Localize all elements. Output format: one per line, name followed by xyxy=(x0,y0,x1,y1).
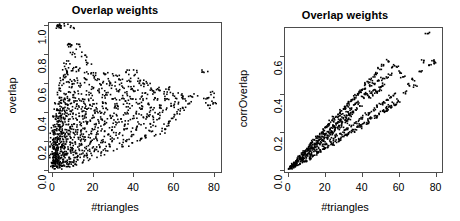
x-tick-label: 20 xyxy=(87,182,99,193)
y-axis-title-right: corrOverlap xyxy=(238,59,249,139)
scatter-canvas-right xyxy=(285,28,442,172)
y-tick-label: 0.6 xyxy=(37,83,48,107)
x-axis-title-left: #triangles xyxy=(0,202,230,213)
x-tick-label: 60 xyxy=(168,182,180,193)
x-tick-mark xyxy=(52,173,53,177)
panel-overlap: Overlap weights overlap #triangles 02040… xyxy=(0,0,230,221)
panel-title-right: Overlap weights xyxy=(230,9,460,21)
x-tick-label: 80 xyxy=(208,182,220,193)
x-tick-label: 80 xyxy=(430,182,442,193)
y-tick-label: 0.8 xyxy=(37,54,48,78)
x-tick-mark xyxy=(399,173,400,177)
x-tick-mark xyxy=(288,173,289,177)
x-tick-label: 60 xyxy=(393,182,405,193)
y-tick-label: 0.0 xyxy=(37,170,48,194)
x-tick-mark xyxy=(214,173,215,177)
y-tick-label: 0.6 xyxy=(273,56,284,80)
x-axis-title-right: #triangles xyxy=(230,202,460,213)
x-tick-label: 40 xyxy=(127,182,139,193)
x-tick-label: 40 xyxy=(356,182,368,193)
y-tick-label: 0.4 xyxy=(37,112,48,136)
x-tick-mark xyxy=(436,173,437,177)
y-tick-label: 0.2 xyxy=(37,141,48,165)
x-tick-label: 20 xyxy=(319,182,331,193)
panel-corroverlap: Overlap weights corrOverlap #triangles 0… xyxy=(230,0,460,221)
y-axis-title-left: overlap xyxy=(7,56,18,136)
x-tick-mark xyxy=(133,173,134,177)
x-tick-mark xyxy=(173,173,174,177)
y-tick-label: 1.0 xyxy=(37,25,48,49)
y-tick-label: 0.0 xyxy=(273,170,284,194)
x-tick-mark xyxy=(93,173,94,177)
scatter-canvas-left xyxy=(49,23,221,172)
panel-title-left: Overlap weights xyxy=(0,4,230,16)
x-tick-label: 0 xyxy=(285,182,291,193)
figure-root: Overlap weights overlap #triangles 02040… xyxy=(0,0,460,221)
plot-area-left xyxy=(48,22,222,173)
y-tick-label: 0.2 xyxy=(273,132,284,156)
plot-area-right xyxy=(284,27,443,173)
x-tick-mark xyxy=(325,173,326,177)
x-tick-label: 0 xyxy=(49,182,55,193)
y-tick-label: 0.4 xyxy=(273,94,284,118)
x-tick-mark xyxy=(362,173,363,177)
